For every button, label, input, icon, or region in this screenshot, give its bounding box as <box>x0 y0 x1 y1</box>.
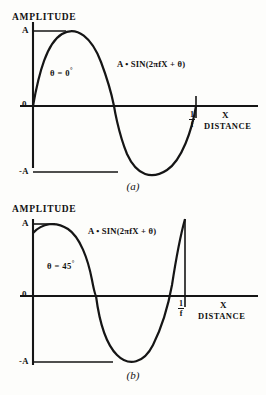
y-axis-label: AMPLITUDE <box>12 12 76 22</box>
period-fraction: 1 f <box>189 111 195 129</box>
period-fraction: 1 f <box>178 300 184 318</box>
formula-label: A • SIN(2πfX + θ) <box>88 226 156 236</box>
sine-curve-phase-45 <box>33 219 185 362</box>
phase-label: θ = 45° <box>47 259 75 271</box>
y-axis-label: AMPLITUDE <box>12 204 76 214</box>
panel-b-plot <box>0 197 266 375</box>
period-numerator: 1 <box>178 300 184 309</box>
period-numerator: 1 <box>189 111 195 120</box>
period-denominator: f <box>178 309 184 318</box>
phase-label: θ = 0° <box>50 66 73 78</box>
sine-curve-phase-0 <box>33 31 196 175</box>
x-axis-sublabel: DISTANCE <box>204 121 251 131</box>
phase-value: θ = 0 <box>50 68 70 78</box>
degree-symbol: ° <box>70 66 73 73</box>
formula-label: A • SIN(2πfX + θ) <box>117 59 185 69</box>
y-tick-label-zero: 0 <box>22 99 27 109</box>
phase-value: θ = 45 <box>47 261 72 271</box>
x-axis-label: X <box>222 110 229 120</box>
period-denominator: f <box>189 120 195 129</box>
degree-symbol: ° <box>72 259 75 266</box>
panel-b-caption: (b) <box>0 369 266 381</box>
y-tick-label-zero: 0 <box>22 289 27 299</box>
y-tick-label-neg-a: -A <box>19 166 29 176</box>
panel-a-caption: (a) <box>0 180 266 192</box>
panel-a-plot <box>0 0 266 178</box>
y-tick-label-a: A <box>22 25 29 35</box>
x-axis-sublabel: DISTANCE <box>198 311 245 321</box>
panel-b: AMPLITUDE A 0 -A A • SIN(2πfX + θ) θ = 4… <box>0 197 266 395</box>
x-axis-label: X <box>220 300 227 310</box>
y-tick-label-neg-a: -A <box>19 356 29 366</box>
panel-a: AMPLITUDE A 0 -A A • SIN(2πfX + θ) θ = 0… <box>0 0 266 198</box>
y-tick-label-a: A <box>22 218 29 228</box>
sine-wave-figure: AMPLITUDE A 0 -A A • SIN(2πfX + θ) θ = 0… <box>0 0 266 395</box>
